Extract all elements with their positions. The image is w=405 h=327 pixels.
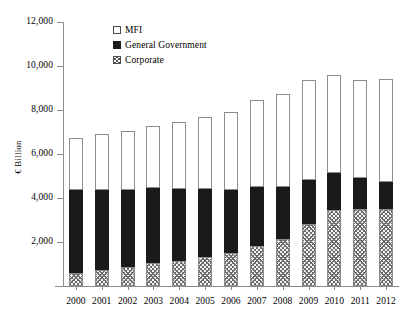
y-axis-tick xyxy=(57,286,63,287)
x-axis-tick-label: 2002 xyxy=(115,296,141,306)
bar-segment-corporate xyxy=(69,273,83,286)
x-axis-tick-label: 2003 xyxy=(141,296,167,306)
x-axis-tick xyxy=(76,286,77,290)
bar-2007[interactable] xyxy=(250,22,264,286)
x-axis-tick xyxy=(231,286,232,290)
bar-2001[interactable] xyxy=(95,22,109,286)
x-axis-tick xyxy=(360,286,361,290)
bar-segment-mfi xyxy=(69,138,83,191)
bar-segment-corporate xyxy=(198,257,212,286)
bar-segment-corporate xyxy=(172,261,186,286)
bar-segment-mfi xyxy=(250,100,264,187)
bar-segment-corporate xyxy=(250,246,264,286)
bar-segment-corporate xyxy=(95,270,109,287)
y-axis-tick-label: 10,000 xyxy=(0,61,53,71)
bar-segment-general-government xyxy=(302,180,316,224)
bar-segment-mfi xyxy=(302,80,316,180)
bar-2004[interactable] xyxy=(172,22,186,286)
x-axis-tick-label: 2011 xyxy=(347,296,373,306)
bar-2000[interactable] xyxy=(69,22,83,286)
y-axis-tick-label: 12,000 xyxy=(0,17,53,27)
bar-2009[interactable] xyxy=(302,22,316,286)
bar-segment-mfi xyxy=(198,117,212,190)
bar-segment-general-government xyxy=(224,190,238,253)
bar-segment-corporate xyxy=(302,224,316,286)
bar-segment-general-government xyxy=(276,187,290,239)
bar-segment-general-government xyxy=(250,187,264,246)
y-axis-tick-label: 6,000 xyxy=(0,149,53,159)
x-axis-tick xyxy=(153,286,154,290)
x-axis-tick-label: 2000 xyxy=(63,296,89,306)
bar-segment-general-government xyxy=(198,189,212,257)
x-axis-tick xyxy=(102,286,103,290)
bar-segment-general-government xyxy=(69,190,83,273)
x-axis-tick xyxy=(386,286,387,290)
bar-segment-corporate xyxy=(327,210,341,286)
bar-segment-general-government xyxy=(327,173,341,210)
y-axis-tick-label: 4,000 xyxy=(0,193,53,203)
x-axis-tick-label: 2007 xyxy=(244,296,270,306)
x-axis-tick xyxy=(334,286,335,290)
x-axis-tick xyxy=(283,286,284,290)
bar-segment-corporate xyxy=(379,209,393,286)
bar-2003[interactable] xyxy=(146,22,160,286)
x-axis-tick-label: 2004 xyxy=(166,296,192,306)
bar-segment-corporate xyxy=(224,253,238,286)
x-axis-tick xyxy=(205,286,206,290)
x-axis-tick-label: 2005 xyxy=(192,296,218,306)
bar-2010[interactable] xyxy=(327,22,341,286)
bar-segment-mfi xyxy=(172,122,186,189)
legend-label-general-government: General Government xyxy=(125,40,207,50)
x-axis-tick-label: 2006 xyxy=(218,296,244,306)
bar-segment-mfi xyxy=(121,131,135,190)
x-axis-tick-label: 2001 xyxy=(89,296,115,306)
bar-2012[interactable] xyxy=(379,22,393,286)
bar-segment-corporate xyxy=(353,209,367,286)
bar-segment-corporate xyxy=(146,263,160,286)
bar-2002[interactable] xyxy=(121,22,135,286)
bar-2006[interactable] xyxy=(224,22,238,286)
x-axis-line xyxy=(55,286,399,287)
bar-segment-mfi xyxy=(276,94,290,188)
bar-segment-general-government xyxy=(172,189,186,261)
bar-segment-general-government xyxy=(379,182,393,210)
bar-2005[interactable] xyxy=(198,22,212,286)
y-axis-tick-label: 2,000 xyxy=(0,237,53,247)
x-axis-tick xyxy=(257,286,258,290)
x-axis-tick-label: 2008 xyxy=(270,296,296,306)
bar-segment-general-government xyxy=(95,190,109,269)
bar-segment-mfi xyxy=(224,112,238,191)
bar-segment-corporate xyxy=(121,267,135,286)
bar-segment-general-government xyxy=(353,178,367,209)
bar-segment-mfi xyxy=(327,75,341,173)
bar-segment-general-government xyxy=(146,188,160,263)
y-axis-tick-label: 8,000 xyxy=(0,105,53,115)
x-axis-tick-label: 2010 xyxy=(321,296,347,306)
x-axis-tick xyxy=(179,286,180,290)
x-axis-tick-label: 2009 xyxy=(296,296,322,306)
bar-segment-corporate xyxy=(276,239,290,286)
stacked-bar-chart: € Billion 2,0004,0006,0008,00010,00012,0… xyxy=(0,0,405,327)
x-axis-tick xyxy=(309,286,310,290)
x-axis-tick xyxy=(128,286,129,290)
bar-segment-mfi xyxy=(353,80,367,178)
x-axis-tick-label: 2012 xyxy=(373,296,399,306)
bar-2008[interactable] xyxy=(276,22,290,286)
bar-segment-mfi xyxy=(95,134,109,190)
bar-segment-mfi xyxy=(146,126,160,188)
bar-segment-mfi xyxy=(379,79,393,181)
bar-segment-general-government xyxy=(121,190,135,267)
bar-2011[interactable] xyxy=(353,22,367,286)
